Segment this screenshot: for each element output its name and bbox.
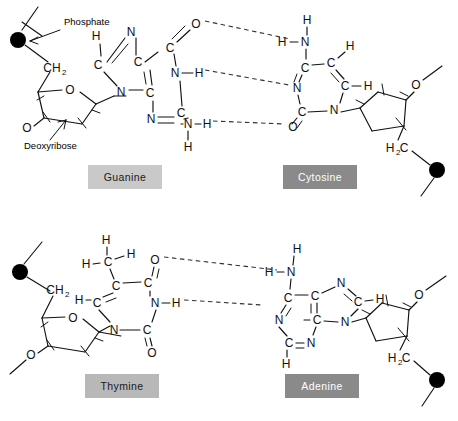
deoxyribose-ring-guanine (34, 72, 114, 128)
atom-adenine-c: C (311, 289, 320, 303)
atom-cytosine-h: H (346, 39, 355, 53)
atom-sugar-o: O (414, 288, 423, 302)
atom-guanine-h: H (184, 140, 193, 154)
atom-guanine-c: C (146, 86, 155, 100)
atom-guanine-n: N (117, 85, 126, 99)
atom-cytosine-h: H (278, 35, 287, 49)
atom-cytosine-h: H (303, 13, 312, 27)
atom-sugar-o: O (411, 78, 420, 92)
phosphate-group-adenine (414, 361, 445, 406)
atom-thymine-h: H (82, 257, 91, 271)
atom-cytosine-n: N (301, 35, 310, 49)
atom-cytosine-c: C (327, 56, 336, 70)
atom-guanine-c: C (166, 41, 175, 55)
phosphate-annotation-label: Phosphate (64, 16, 109, 27)
atom-adenine-h: H (282, 357, 291, 371)
deoxyribose-annotation-arrow (50, 120, 66, 140)
atom-subscript: 2 (65, 290, 70, 299)
atom-adenine-n: N (287, 265, 296, 279)
atom-adenine-n: N (307, 336, 316, 350)
atom-guanine-c: C (94, 58, 103, 72)
atom-thymine-o: O (150, 253, 159, 267)
atom-guanine-n: N (127, 25, 136, 39)
phosphate-annotation-arrow (30, 30, 60, 44)
dna-base-pairing-figure: HNCCCONCNHNCNHHHNHCCHCHNCNOHCHHCCOCHNHNC… (0, 0, 458, 421)
atom-sugar-h: H (388, 351, 397, 365)
atom-cytosine-c: C (341, 79, 350, 93)
atom-thymine-h: H (75, 293, 84, 307)
atom-cytosine-o: O (288, 120, 297, 134)
atom-cytosine-c: C (298, 105, 307, 119)
atom-sugar-c: C (400, 141, 409, 155)
atom-thymine-c: C (143, 323, 152, 337)
atom-guanine-n: N (171, 66, 180, 80)
atom-thymine-h: H (102, 233, 111, 247)
atom-adenine-c: C (313, 313, 322, 327)
atom-adenine-n: N (341, 315, 350, 329)
base-label-thymine: Thymine (85, 374, 159, 398)
atom-thymine-c: C (112, 279, 121, 293)
atom-guanine-h: H (203, 117, 212, 131)
atom-guanine-n: N (184, 117, 193, 131)
atom-thymine-c: C (104, 255, 113, 269)
atom-sugar-o: O (65, 83, 74, 97)
atom-thymine-o: O (147, 346, 156, 360)
atom-adenine-n: N (275, 313, 284, 327)
phosphate-group-guanine (10, 7, 48, 62)
atom-adenine-c: C (354, 295, 363, 309)
atom-adenine-h: H (265, 265, 274, 279)
atom-guanine-h: H (92, 29, 101, 43)
atom-adenine-c: C (285, 336, 294, 350)
atom-guanine-c: C (134, 55, 143, 69)
atom-adenine-h: H (376, 292, 385, 306)
atom-guanine-h: H (195, 66, 204, 80)
hydrogen-bonds-thymine-adenine (164, 257, 277, 305)
atom-cytosine-h: H (364, 79, 373, 93)
atom-adenine-c: C (284, 291, 293, 305)
atom-sugar-ch: CH (46, 283, 63, 297)
atom-thymine-h: H (127, 247, 136, 261)
structure-canvas: HNCCCONCNHNCNHHHNHCCHCHNCNOHCHHCCOCHNHNC… (0, 0, 458, 421)
atom-thymine-n: N (151, 296, 160, 310)
atom-adenine-h: H (293, 242, 302, 256)
base-label-cytosine: Cytosine (283, 165, 357, 189)
atom-thymine-n: N (110, 323, 119, 337)
phosphate-group-thymine (12, 242, 50, 291)
atom-sugar-o: O (68, 311, 77, 325)
atom-sugar-o: O (26, 348, 35, 362)
phosphate-group-cytosine (412, 151, 445, 196)
atom-subscript: 2 (62, 68, 67, 77)
deoxyribose-annotation-label: Deoxyribose (24, 140, 77, 151)
atom-cytosine-n: N (293, 81, 302, 95)
atom-guanine-n: N (147, 112, 156, 126)
atom-thymine-c: C (93, 296, 102, 310)
base-label-adenine: Adenine (285, 374, 359, 398)
atom-sugar-ch: CH (43, 61, 60, 75)
atom-cytosine-n: N (330, 103, 339, 117)
atom-guanine-o: O (191, 17, 200, 31)
atom-adenine-n: N (337, 276, 346, 290)
atom-thymine-h: H (172, 296, 181, 310)
atom-sugar-c: C (402, 351, 411, 365)
base-label-guanine: Guanine (88, 165, 162, 189)
atom-sugar-h: H (386, 141, 395, 155)
atom-thymine-c: C (144, 276, 153, 290)
deoxyribose-ring-cytosine (356, 66, 442, 140)
atom-label-layer: HNCCCONCNHNCNHHHNHCCHCHNCNOHCHHCCOCHNHNC… (22, 13, 423, 371)
atom-sugar-o: O (22, 121, 31, 135)
atom-cytosine-c: C (301, 61, 310, 75)
deoxyribose-ring-adenine (362, 276, 446, 350)
